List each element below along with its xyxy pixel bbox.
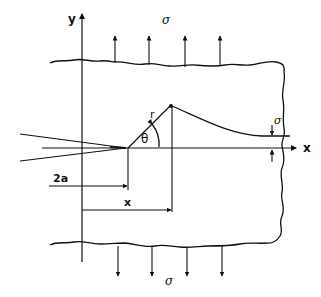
x-axis-label: x [303,141,311,155]
bottom-tension-arrows [118,246,222,276]
crack-tip-diagram: y x r θ σ σ σ 2a x [0,0,321,297]
theta-label: θ [141,132,148,146]
sigma-right-label: σ [274,114,282,127]
crack-length-label: 2a [53,172,68,185]
y-axis-label: y [68,12,76,26]
sigma-bottom-label: σ [165,274,174,288]
r-label: r [150,108,155,121]
distance-x-label: x [124,196,131,209]
top-tension-arrows [115,36,220,67]
plate-right-edge [266,72,284,243]
sigma-top-label: σ [162,13,171,27]
angle-theta-arc [152,124,159,147]
plate-top-edge [50,59,284,72]
